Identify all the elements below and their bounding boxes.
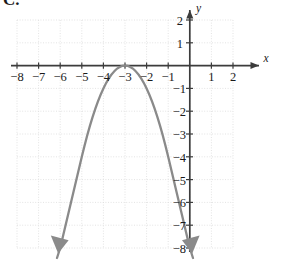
y-tick-label: 2: [177, 14, 183, 28]
parabola-graph: #figure-root [data-name="grid-vertical-l…: [0, 0, 282, 262]
y-tick-label: −7: [173, 219, 186, 233]
x-tick-label: −4: [97, 70, 111, 84]
x-tick-label: −8: [10, 70, 23, 84]
x-tick-label: −5: [75, 70, 88, 84]
x-tick-label: −7: [32, 70, 45, 84]
grid-vertical-lines: [17, 20, 233, 248]
y-tick-label: −4: [173, 151, 187, 165]
x-axis-tick-labels: −8 −7 −6 −5 −4 −3 −2 −1 1 2: [10, 70, 236, 84]
y-tick-label: −2: [173, 105, 186, 119]
y-axis-label: y: [195, 2, 202, 15]
y-tick-label: −3: [173, 128, 186, 142]
curve-left-arrowhead: [51, 236, 69, 254]
y-tick-label: 1: [177, 37, 183, 51]
x-tick-label: −2: [140, 70, 153, 84]
x-axis-arrowhead: [251, 62, 260, 69]
y-tick-label: −1: [173, 82, 186, 96]
y-axis: [186, 10, 193, 252]
x-axis-label: x: [262, 52, 269, 64]
x-tick-label: 1: [208, 70, 214, 84]
y-axis-tick-labels: 2 1 −1 −2 −3 −4 −5 −6 −7 −8: [173, 14, 187, 256]
x-tick-label: −6: [54, 70, 67, 84]
y-tick-label: −5: [173, 174, 186, 188]
x-tick-label: 2: [230, 70, 236, 84]
y-tick-label: −8: [173, 242, 186, 256]
y-tick-label: −6: [173, 196, 186, 210]
x-axis: [11, 62, 259, 69]
figure-container: C.: [0, 0, 282, 262]
y-axis-arrowhead: [186, 10, 193, 19]
x-tick-label: −3: [118, 70, 131, 84]
